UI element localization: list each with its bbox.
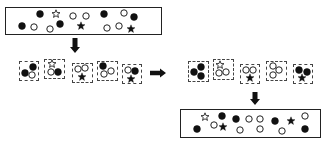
filled-circle-icon: [296, 67, 303, 74]
hollow-circle-icon: [270, 63, 276, 69]
hollow-circle-icon: [257, 116, 263, 122]
result-items: [194, 113, 309, 135]
filled-circle-icon: [219, 113, 226, 120]
arrow-down-icon: [250, 92, 260, 105]
filled-circle-icon: [19, 23, 26, 30]
hollow-circle-icon: [276, 67, 282, 73]
filled-star-icon: [246, 74, 254, 82]
hollow-circle-icon: [47, 26, 53, 32]
filled-circle-icon: [272, 118, 279, 125]
filled-circle-icon: [101, 11, 108, 18]
hollow-circle-icon: [82, 65, 88, 71]
diagram-canvas: [0, 0, 326, 145]
filled-circle-icon: [194, 126, 201, 133]
filled-circle-icon: [304, 69, 311, 76]
filled-circle-icon: [198, 73, 205, 80]
hollow-circle-icon: [29, 72, 35, 78]
hollow-circle-icon: [108, 68, 114, 74]
filled-circle-icon: [233, 116, 240, 123]
hollow-circle-icon: [257, 126, 263, 132]
hollow-circle-icon: [211, 122, 217, 128]
filled-circle-icon: [55, 69, 62, 76]
hollow-circle-icon: [116, 23, 122, 29]
hollow-circle-icon: [83, 13, 89, 19]
hollow-circle-icon: [125, 67, 131, 73]
filled-circle-icon: [302, 126, 309, 133]
hollow-circle-icon: [237, 127, 243, 133]
filled-star-icon: [127, 25, 135, 33]
hollow-circle-icon: [279, 128, 285, 134]
filled-star-icon: [127, 75, 135, 83]
arrows: [70, 38, 260, 105]
hollow-circle-icon: [70, 13, 76, 19]
filled-circle-icon: [132, 68, 139, 75]
hollow-circle-icon: [216, 70, 222, 76]
hollow-star-icon: [52, 10, 60, 18]
hollow-star-icon: [48, 60, 56, 68]
hollow-circle-icon: [270, 72, 276, 78]
hollow-circle-icon: [223, 69, 229, 75]
filled-star-icon: [287, 117, 295, 125]
arrow-down-icon: [70, 38, 80, 53]
hollow-circle-icon: [246, 116, 252, 122]
filled-circle-icon: [191, 69, 198, 76]
filled-circle-icon: [22, 70, 29, 77]
filled-star-icon: [78, 73, 86, 81]
hollow-star-icon: [216, 61, 224, 69]
filled-circle-icon: [30, 64, 37, 71]
arrow-right-icon: [150, 69, 166, 78]
filled-circle-icon: [57, 21, 64, 28]
source-items: [19, 10, 138, 33]
hollow-star-icon: [201, 113, 209, 121]
hollow-circle-icon: [104, 25, 110, 31]
filled-circle-icon: [100, 63, 107, 70]
hollow-circle-icon: [75, 66, 81, 72]
hollow-circle-icon: [48, 69, 54, 75]
hollow-circle-icon: [31, 24, 37, 30]
group-items: [22, 60, 311, 83]
filled-circle-icon: [37, 11, 44, 18]
hollow-circle-icon: [302, 113, 308, 119]
filled-circle-icon: [198, 64, 205, 71]
hollow-circle-icon: [250, 67, 256, 73]
hollow-circle-icon: [101, 71, 107, 77]
filled-star-icon: [219, 123, 227, 131]
hollow-circle-icon: [121, 10, 127, 16]
filled-star-icon: [77, 22, 85, 30]
filled-circle-icon: [131, 14, 138, 21]
hollow-circle-icon: [243, 67, 249, 73]
